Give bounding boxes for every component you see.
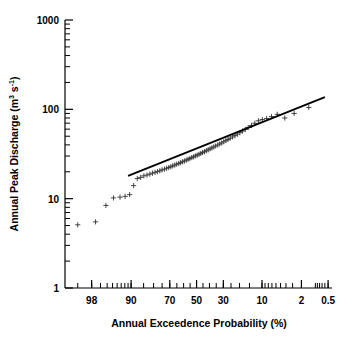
x-tick-label: 2 (299, 295, 305, 306)
data-point (306, 105, 311, 110)
data-point (152, 170, 157, 175)
data-point (160, 167, 165, 172)
data-point (292, 111, 297, 116)
y-axis-title: Annual Peak Discharge (m3 s-1) (8, 77, 20, 232)
scatter-points (75, 105, 311, 228)
data-point (155, 169, 160, 174)
fit-line-segment (128, 97, 325, 176)
x-tick-label: 50 (191, 295, 203, 306)
y-tick-label: 10 (48, 194, 60, 205)
data-point (150, 171, 155, 176)
x-axis-ticks (78, 280, 328, 288)
chart-figure: 1000100101 98907050301020.5 Annual Excee… (0, 0, 346, 338)
y-axis-ticks (65, 20, 73, 288)
x-tick-label: 30 (218, 295, 230, 306)
x-axis-title: Annual Exceedence Probability (%) (111, 317, 287, 329)
y-tick-label: 1000 (37, 15, 60, 26)
data-point (103, 203, 108, 208)
y-tick-label: 100 (42, 104, 59, 115)
data-point (135, 176, 140, 181)
data-point (117, 195, 122, 200)
x-tick-label: 70 (164, 295, 176, 306)
data-point (282, 115, 287, 120)
x-tick-label: 90 (126, 295, 138, 306)
y-axis-tick-labels: 1000100101 (37, 15, 60, 294)
data-point (75, 222, 80, 227)
data-point (157, 168, 162, 173)
probability-plot: 1000100101 98907050301020.5 Annual Excee… (0, 0, 346, 338)
data-point (111, 195, 116, 200)
data-point (147, 172, 152, 177)
fit-line (128, 97, 325, 176)
x-tick-label: 0.5 (321, 295, 335, 306)
data-point (131, 183, 136, 188)
x-tick-label: 98 (86, 295, 98, 306)
x-tick-label: 10 (256, 295, 268, 306)
y-tick-label: 1 (53, 283, 59, 294)
data-point (127, 192, 132, 197)
data-point (144, 172, 149, 177)
data-point (123, 194, 128, 199)
x-axis-tick-labels: 98907050301020.5 (86, 295, 335, 306)
data-point (93, 219, 98, 224)
